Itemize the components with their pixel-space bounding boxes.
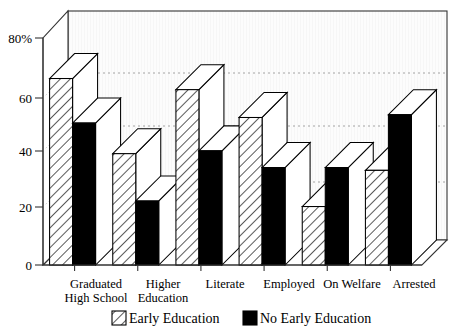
category-label-arrested: Arrested xyxy=(392,277,436,291)
bar-employed-early-education-front-face xyxy=(239,117,262,265)
category-label-graduated-high-school-line1: Graduated xyxy=(70,277,123,291)
y-tick-label-20: 20 xyxy=(19,200,32,215)
category-label-employed: Employed xyxy=(263,277,315,291)
bar-on-welfare-early-education-front-face xyxy=(302,207,325,265)
bar-employed-no-early-education-front-face xyxy=(262,168,285,265)
bar-higher-education-early-education-front-face xyxy=(113,154,136,265)
bar-arrested-no-early-education[interactable] xyxy=(388,90,436,265)
y-tick-label-40: 40 xyxy=(19,144,32,159)
category-label-on-welfare: On Welfare xyxy=(323,277,381,291)
y-axis: 80% 60 40 20 0 xyxy=(8,31,43,273)
legend-item-no-early-education[interactable]: No Early Education xyxy=(243,311,371,326)
chart-canvas: 80% 60 40 20 0 Graduated High School Hig… xyxy=(0,0,459,333)
y-tick-label-0: 0 xyxy=(26,258,33,273)
bar-graduated-high-school-no-early-education-front-face xyxy=(73,123,96,265)
bar-chart: 80% 60 40 20 0 Graduated High School Hig… xyxy=(0,0,459,333)
category-label-literate: Literate xyxy=(206,277,245,291)
bar-higher-education-no-early-education-front-face xyxy=(136,201,159,265)
bar-arrested-no-early-education-front-face xyxy=(388,115,411,265)
category-label-graduated-high-school-line2: High School xyxy=(65,291,128,305)
bar-literate-early-education-front-face xyxy=(176,90,199,265)
category-labels: Graduated High School Higher Education L… xyxy=(65,277,437,305)
bar-graduated-high-school-early-education-front-face xyxy=(50,79,73,265)
x-axis xyxy=(43,265,422,271)
bar-arrested-no-early-education-side-face xyxy=(411,90,436,265)
category-label-higher-education-line1: Higher xyxy=(146,277,182,291)
legend-swatch-early-education xyxy=(112,311,126,325)
bar-arrested-early-education-front-face xyxy=(365,170,388,265)
legend-swatch-no-early-education xyxy=(243,311,257,325)
bar-literate-no-early-education-front-face xyxy=(199,151,222,265)
y-tick-label-60: 60 xyxy=(19,91,32,106)
category-label-higher-education-line2: Education xyxy=(138,291,189,305)
bar-on-welfare-no-early-education-front-face xyxy=(325,168,348,265)
legend-label-no-early-education: No Early Education xyxy=(260,311,371,326)
legend-item-early-education[interactable]: Early Education xyxy=(112,311,220,326)
y-tick-label-80: 80% xyxy=(8,31,32,46)
legend-label-early-education: Early Education xyxy=(129,311,220,326)
legend: Early Education No Early Education xyxy=(112,311,371,326)
